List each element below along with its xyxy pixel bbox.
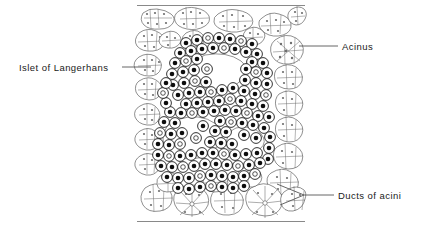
islet-cell [255, 158, 266, 169]
islet-cell [231, 106, 242, 117]
islet-cell [248, 120, 259, 131]
islet-cell [226, 117, 237, 128]
islet-cell [197, 44, 208, 55]
islet-cell [233, 161, 244, 172]
islet-cell [214, 33, 225, 44]
islet-cell [170, 58, 181, 69]
islet-cell [265, 132, 276, 143]
islet-cell [184, 184, 195, 195]
islet-cell [236, 96, 247, 107]
islet-cell [241, 47, 252, 58]
islet-cell [240, 75, 251, 86]
islet-cell [209, 106, 220, 117]
islet-cell [228, 83, 239, 94]
islet-cell [227, 139, 238, 150]
islet-cell [161, 98, 172, 109]
islet-cell [166, 129, 177, 140]
islet-cell [251, 67, 262, 78]
islet-cell [173, 173, 184, 184]
islet-cell [230, 44, 241, 55]
islet-cell [241, 64, 252, 75]
islet-cell [203, 33, 214, 44]
pancreas-histology-figure: Islet of Langerhans Acinus Ducts of acin… [0, 0, 423, 231]
islet-cell [258, 58, 269, 69]
acinus-lobule [135, 78, 161, 100]
islet-cell [198, 107, 209, 118]
islet-cell [195, 87, 206, 98]
islet-cell [262, 79, 273, 90]
islet-cell [239, 130, 250, 141]
islet-cell [153, 150, 164, 161]
islet-cell [230, 150, 241, 161]
islet-cell [210, 126, 221, 137]
islet-cell [211, 159, 222, 170]
islet-cell [173, 183, 184, 194]
islet-cell [177, 128, 188, 139]
islet-cell [175, 151, 186, 162]
islet-cell [220, 105, 231, 116]
islet-cell [221, 127, 232, 138]
islet-cell [239, 86, 250, 97]
islet-cell [206, 181, 217, 192]
label-acinus: Acinus [342, 41, 373, 52]
islet-cell [225, 94, 236, 105]
islet-cell [219, 43, 230, 54]
islet-cell [258, 101, 269, 112]
islet-cell [198, 121, 209, 132]
islet-cell [159, 117, 170, 128]
islet-cell [189, 161, 200, 172]
islet-cell [201, 77, 212, 88]
islet-cell [167, 162, 178, 173]
islet-cell [184, 88, 195, 99]
islet-cell [175, 139, 186, 150]
islet-cell [158, 88, 169, 99]
islet-cell [195, 171, 206, 182]
islet-cell [184, 173, 195, 184]
islet-cell [251, 78, 262, 89]
islet-cell [250, 169, 261, 180]
islet-cell [156, 161, 167, 172]
islet-cell [264, 112, 275, 123]
islet-cell [217, 85, 228, 96]
islet-cell [222, 160, 233, 171]
islet-cell [176, 108, 187, 119]
islet-cell [264, 143, 275, 154]
islet-cell [164, 140, 175, 151]
islet-cell [153, 139, 164, 150]
islet-cell [200, 159, 211, 170]
islet-cell [237, 118, 248, 129]
label-islet-of-langerhans: Islet of Langerhans [19, 62, 108, 73]
islet-cell [197, 148, 208, 159]
islet-cell [251, 133, 262, 144]
islet-cell [228, 172, 239, 183]
islet-cell [192, 54, 203, 65]
islet-cell [170, 118, 181, 129]
islet-cell [178, 67, 189, 78]
islet-cell [228, 183, 239, 194]
islet-cell [187, 108, 198, 119]
islet-cell [239, 181, 250, 192]
islet-cell [189, 65, 200, 76]
islet-cell [215, 116, 226, 127]
islet-cell [219, 149, 230, 160]
islet-cell [208, 43, 219, 54]
islet-cell [173, 90, 184, 101]
islet-cell [242, 108, 253, 119]
islet-cell [195, 182, 206, 193]
islet-cell [217, 171, 228, 182]
islet-cell [208, 148, 219, 159]
islet-cell [205, 137, 216, 148]
islet-cell [217, 182, 228, 193]
islet-cell [202, 64, 213, 75]
islet-cell [181, 56, 192, 67]
islet-cell [178, 162, 189, 173]
islet-cell [161, 78, 172, 89]
islet-cell [206, 87, 217, 98]
islet-cell [252, 148, 263, 159]
islet-cell [186, 150, 197, 161]
islet-cell [261, 90, 272, 101]
islet-cell [191, 133, 202, 144]
islet-cell [262, 68, 273, 79]
islet-cell [206, 170, 217, 181]
islet-cell [164, 151, 175, 162]
